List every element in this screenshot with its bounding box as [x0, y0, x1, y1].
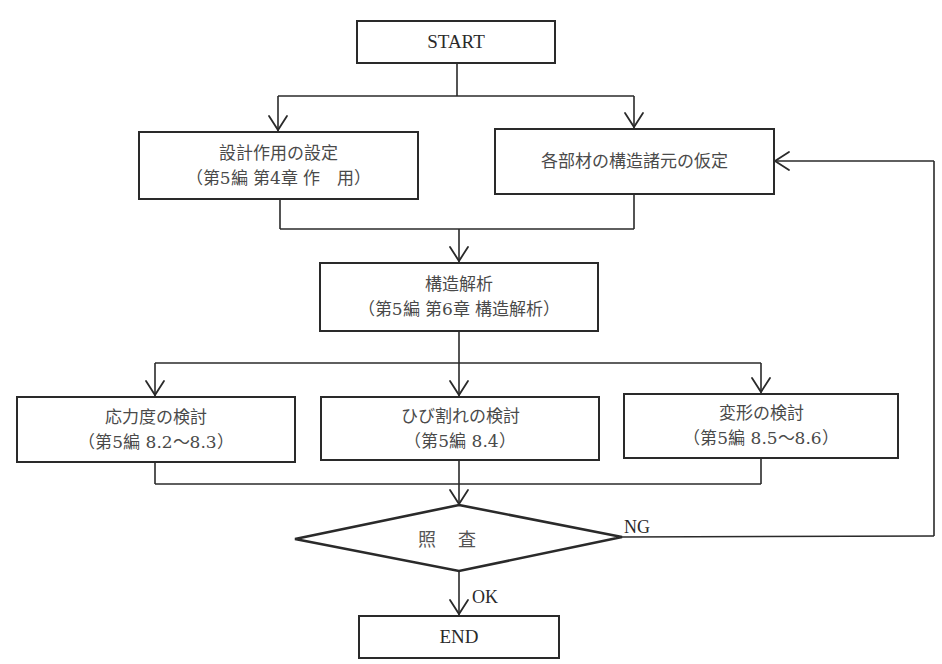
deformation-check-box: 変形の検討 （第5編 8.5～8.6） — [623, 393, 899, 459]
member-assumption-title: 各部材の構造諸元の仮定 — [541, 149, 728, 174]
structural-analysis-ref: （第5編 第6章 構造解析） — [358, 297, 560, 322]
ok-label: OK — [472, 587, 498, 608]
design-action-ref: （第5編 第4章 作 用） — [186, 166, 371, 191]
end-label: END — [439, 623, 478, 651]
ng-label: NG — [624, 517, 650, 538]
connector-lines — [0, 0, 942, 664]
crack-check-box: ひび割れの検討 （第5編 8.4） — [320, 396, 600, 461]
decision-label: 照査 — [418, 525, 498, 551]
stress-check-ref: （第5編 8.2～8.3） — [78, 430, 233, 455]
design-action-title: 設計作用の設定 — [219, 141, 338, 166]
crack-check-ref: （第5編 8.4） — [404, 429, 515, 454]
start-label: START — [427, 28, 485, 56]
deformation-check-ref: （第5編 8.5～8.6） — [683, 426, 838, 451]
design-action-box: 設計作用の設定 （第5編 第4章 作 用） — [138, 131, 419, 200]
end-node: END — [358, 615, 560, 659]
stress-check-title: 応力度の検討 — [105, 405, 207, 430]
structural-analysis-title: 構造解析 — [425, 272, 493, 297]
stress-check-box: 応力度の検討 （第5編 8.2～8.3） — [16, 396, 296, 463]
deformation-check-title: 変形の検討 — [719, 401, 804, 426]
structural-analysis-box: 構造解析 （第5編 第6章 構造解析） — [319, 262, 599, 332]
member-assumption-box: 各部材の構造諸元の仮定 — [494, 128, 775, 195]
crack-check-title: ひび割れの検討 — [401, 404, 520, 429]
start-node: START — [356, 20, 556, 64]
